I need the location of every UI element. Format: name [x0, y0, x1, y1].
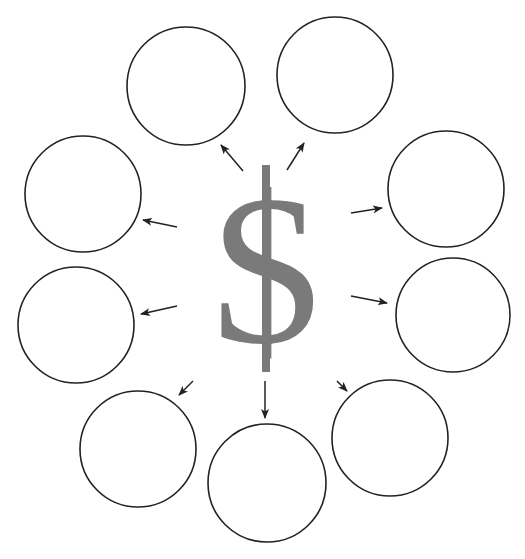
arrow-icon-to-left-lower	[141, 306, 177, 314]
circle-left-lower	[18, 267, 134, 383]
circle-top-right	[277, 17, 393, 133]
money-flow-diagram: $	[0, 0, 525, 559]
circle-left-upper	[25, 136, 141, 252]
dollar-symbol: $	[212, 150, 320, 389]
arrow-icon-to-bottom-left	[179, 381, 193, 395]
circle-bottom-center	[208, 424, 326, 542]
dollar-sign-icon: $	[212, 150, 320, 389]
circle-bottom-left	[80, 391, 196, 507]
circle-top-left	[127, 27, 245, 145]
circle-right-lower	[396, 258, 510, 372]
circle-bottom-right	[332, 380, 448, 496]
arrow-icon-to-right-upper	[351, 208, 382, 213]
circle-right-upper	[388, 131, 504, 247]
arrow-icon-to-left-upper	[143, 220, 177, 227]
arrow-icon-to-bottom-right	[337, 381, 347, 391]
arrow-icon-to-right-lower	[351, 296, 387, 303]
